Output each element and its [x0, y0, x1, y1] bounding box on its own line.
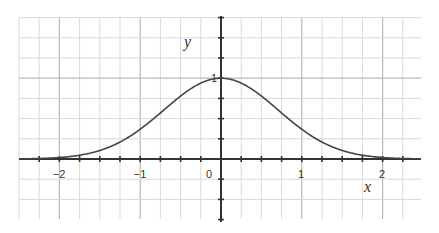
y-axis-label: y — [182, 33, 192, 51]
x-tick-label-neg1: −1 — [134, 168, 147, 180]
y-tick-label-1: 1 — [211, 72, 217, 84]
x-axis-label: x — [363, 178, 371, 195]
x-tick-label-neg2: −2 — [53, 168, 66, 180]
x-tick-label-0: 0 — [206, 168, 212, 180]
gaussian-plot: −2 −1 0 1 2 1 x y — [0, 0, 439, 233]
x-tick-label-1: 1 — [298, 168, 304, 180]
x-tick-label-2: 2 — [379, 168, 385, 180]
